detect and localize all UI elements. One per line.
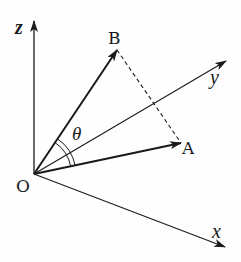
angle-theta-label: θ	[72, 123, 81, 144]
x-axis	[34, 174, 225, 247]
point-a-label: A	[181, 138, 195, 158]
dashed-segment-ab	[117, 50, 181, 143]
point-b-label: B	[108, 28, 121, 48]
x-axis-label: x	[211, 220, 221, 242]
vector-oa	[34, 143, 181, 174]
origin-label: O	[16, 176, 30, 196]
vector-angle-diagram: z y x B A O θ	[0, 0, 241, 262]
y-axis-label: y	[208, 66, 219, 89]
y-axis	[34, 61, 226, 174]
z-axis-label: z	[14, 16, 23, 38]
vector-ob	[34, 50, 117, 174]
